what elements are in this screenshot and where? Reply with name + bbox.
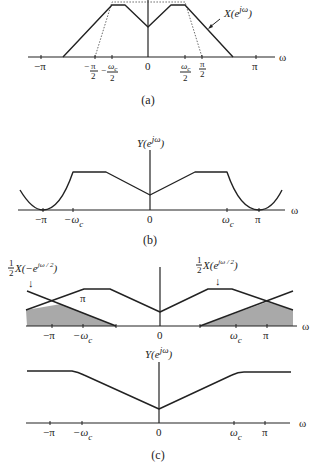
curve-label-y: Y(ejω)	[145, 345, 173, 361]
left-alias-label: X(−ejω / 2)	[14, 261, 58, 275]
tick-neg-pi: −π	[43, 426, 55, 438]
curve-label-y: Y(ejω)	[137, 134, 165, 150]
right-main-label: X(ejω / 2)	[202, 258, 238, 272]
caption-a: (a)	[141, 93, 154, 107]
tick-pi: π	[255, 213, 261, 225]
tick-zero: 0	[157, 329, 163, 341]
spectrum-y	[20, 172, 282, 210]
omega-axis-label: ω	[299, 417, 306, 429]
omega-axis-label: ω	[302, 320, 309, 332]
panel-b: Y(ejω) ω −π −ωc 0 ωc π (b)	[18, 134, 298, 247]
caption-c: (c)	[151, 448, 164, 462]
tick-neg-wc: −ωc	[64, 213, 83, 229]
svg-text:2: 2	[200, 69, 205, 79]
tick-neg-pi: −π	[43, 329, 55, 341]
tick-zero: 0	[156, 426, 162, 438]
tick-wc: ωc	[230, 426, 242, 442]
panel-a: X(ejω) ω −π − π 2 − ωc 2 0 ωc 2 π 2 π (a…	[28, 0, 286, 107]
tick-zero: 0	[147, 213, 153, 225]
tick-neg-pi: −π	[34, 60, 46, 72]
svg-text:2: 2	[91, 71, 96, 81]
inner-pi-label: π	[80, 292, 86, 304]
down-arrow-icon: ↓	[28, 277, 34, 289]
tick-neg-wc: −ωc	[73, 426, 92, 442]
svg-text:1: 1	[197, 255, 202, 265]
figure: X(ejω) ω −π − π 2 − ωc 2 0 ωc 2 π 2 π (a…	[0, 0, 316, 471]
tick-wc: ωc	[230, 329, 242, 345]
tick-neg-wc: −ωc	[73, 329, 92, 345]
tick-neg-wc-half: ωc	[108, 61, 118, 73]
panel-c-top: 1 2 X(−ejω / 2) ↓ 1 2 X(ejω / 2) ↓ π ω −…	[8, 255, 309, 345]
tick-pi: π	[262, 426, 268, 438]
tick-pi: π	[263, 329, 269, 341]
tick-pi: π	[252, 60, 258, 72]
down-arrow-icon: ↓	[215, 275, 221, 287]
left-aliased-shade	[26, 304, 116, 326]
curve-label-x: X(ejω)	[223, 4, 252, 20]
tick-neg-pi-half: π	[91, 61, 96, 71]
tick-wc: ωc	[222, 213, 234, 229]
svg-text:2: 2	[197, 265, 202, 275]
svg-text:1: 1	[9, 258, 14, 268]
tick-zero: 0	[145, 60, 151, 72]
panel-c-bottom: Y(ejω) ω −π −ωc 0 ωc π (c)	[26, 345, 306, 462]
svg-text:2: 2	[9, 268, 14, 278]
svg-text:−: −	[84, 61, 89, 71]
caption-b: (b)	[143, 233, 157, 247]
svg-text:−: −	[101, 65, 106, 75]
tick-neg-pi: −π	[35, 213, 47, 225]
svg-text:2: 2	[110, 73, 115, 83]
omega-axis-label: ω	[291, 204, 298, 216]
svg-text:2: 2	[183, 73, 188, 83]
tick-pi-half: π	[200, 59, 205, 69]
tick-wc-half: ωc	[181, 61, 191, 73]
omega-axis-label: ω	[279, 51, 286, 63]
